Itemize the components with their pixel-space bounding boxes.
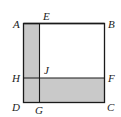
label-g: G: [35, 104, 43, 116]
label-f: F: [107, 72, 115, 84]
label-b: B: [108, 18, 115, 30]
label-c: C: [107, 101, 115, 113]
label-a: A: [12, 18, 20, 30]
geometry-figure: A E B H J F D G C: [0, 0, 121, 117]
label-d: D: [11, 101, 20, 113]
label-h: H: [11, 72, 21, 84]
label-e: E: [42, 10, 50, 22]
shaded-strip-hfcd: [24, 78, 105, 103]
label-j: J: [44, 64, 50, 76]
